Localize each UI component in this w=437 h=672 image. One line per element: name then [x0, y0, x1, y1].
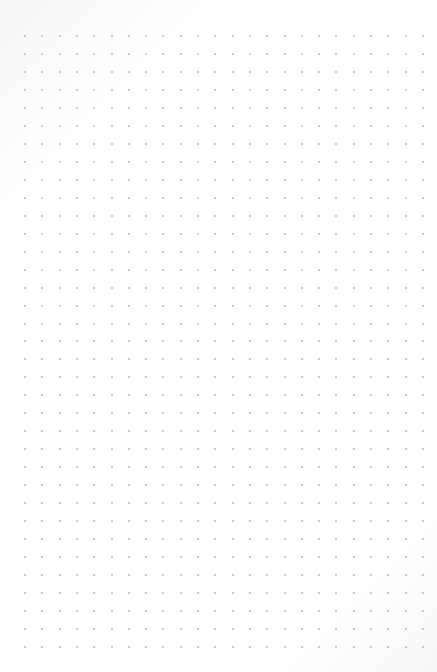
- grid-dot: [335, 340, 337, 342]
- grid-dot: [318, 538, 320, 540]
- grid-dot: [145, 592, 147, 594]
- grid-dot: [24, 466, 26, 468]
- grid-dot: [422, 520, 424, 522]
- grid-dot: [422, 646, 424, 648]
- grid-dot: [24, 53, 26, 55]
- grid-dot: [249, 430, 251, 432]
- grid-dot: [370, 107, 372, 109]
- grid-dot: [41, 520, 43, 522]
- grid-dot: [335, 71, 337, 73]
- grid-dot: [93, 430, 95, 432]
- grid-dot: [422, 179, 424, 181]
- grid-dot: [318, 448, 320, 450]
- grid-dot: [335, 89, 337, 91]
- grid-dot: [59, 610, 61, 612]
- grid-dot: [301, 269, 303, 271]
- grid-dot: [370, 233, 372, 235]
- grid-dot: [353, 502, 355, 504]
- grid-dot: [59, 394, 61, 396]
- grid-dot: [24, 323, 26, 325]
- grid-dot: [162, 269, 164, 271]
- grid-dot: [318, 107, 320, 109]
- grid-dot: [93, 197, 95, 199]
- grid-dot: [128, 125, 130, 127]
- grid-dot: [162, 197, 164, 199]
- grid-dot: [232, 556, 234, 558]
- grid-dot: [387, 358, 389, 360]
- grid-dot: [284, 376, 286, 378]
- grid-dot: [353, 610, 355, 612]
- grid-dot: [387, 538, 389, 540]
- grid-dot: [197, 538, 199, 540]
- grid-dot: [41, 143, 43, 145]
- grid-dot: [266, 340, 268, 342]
- grid-dot: [128, 340, 130, 342]
- grid-dot: [197, 143, 199, 145]
- grid-dot: [214, 502, 216, 504]
- grid-dot: [214, 215, 216, 217]
- grid-dot: [318, 251, 320, 253]
- grid-dot: [335, 646, 337, 648]
- grid-dot: [232, 179, 234, 181]
- grid-dot: [145, 35, 147, 37]
- grid-dot: [335, 287, 337, 289]
- grid-dot: [422, 269, 424, 271]
- grid-dot: [353, 592, 355, 594]
- grid-dot: [41, 610, 43, 612]
- grid-dot: [93, 323, 95, 325]
- grid-dot: [353, 143, 355, 145]
- grid-dot: [387, 53, 389, 55]
- grid-dot: [180, 251, 182, 253]
- grid-dot: [318, 269, 320, 271]
- grid-dot: [111, 610, 113, 612]
- grid-dot: [405, 197, 407, 199]
- grid-dot: [232, 394, 234, 396]
- grid-dot: [405, 215, 407, 217]
- grid-dot: [249, 287, 251, 289]
- grid-dot: [93, 143, 95, 145]
- grid-dot: [318, 143, 320, 145]
- grid-dot: [24, 394, 26, 396]
- grid-dot: [214, 340, 216, 342]
- grid-dot: [422, 161, 424, 163]
- grid-dot: [180, 502, 182, 504]
- grid-dot: [180, 556, 182, 558]
- grid-dot: [76, 394, 78, 396]
- grid-dot: [162, 287, 164, 289]
- grid-dot: [232, 233, 234, 235]
- grid-dot: [93, 628, 95, 630]
- grid-dot: [111, 179, 113, 181]
- grid-dot: [162, 628, 164, 630]
- grid-dot: [301, 107, 303, 109]
- grid-dot: [93, 502, 95, 504]
- grid-dot: [249, 646, 251, 648]
- grid-dot: [24, 233, 26, 235]
- grid-dot: [59, 53, 61, 55]
- grid-dot: [353, 484, 355, 486]
- grid-dot: [370, 53, 372, 55]
- grid-dot: [76, 197, 78, 199]
- grid-dot: [387, 394, 389, 396]
- grid-dot: [335, 143, 337, 145]
- grid-dot: [284, 197, 286, 199]
- grid-dot: [232, 35, 234, 37]
- grid-dot: [232, 412, 234, 414]
- grid-dot: [284, 358, 286, 360]
- grid-dot: [145, 448, 147, 450]
- grid-dot: [180, 538, 182, 540]
- grid-dot: [162, 592, 164, 594]
- grid-dot: [405, 628, 407, 630]
- grid-dot: [353, 358, 355, 360]
- grid-dot: [41, 215, 43, 217]
- grid-dot: [370, 538, 372, 540]
- grid-dot: [93, 340, 95, 342]
- grid-dot: [24, 215, 26, 217]
- grid-dot: [76, 556, 78, 558]
- grid-dot: [335, 448, 337, 450]
- grid-dot: [301, 394, 303, 396]
- grid-dot: [284, 610, 286, 612]
- grid-dot: [301, 161, 303, 163]
- grid-dot: [162, 143, 164, 145]
- grid-dot: [301, 340, 303, 342]
- grid-dot: [284, 269, 286, 271]
